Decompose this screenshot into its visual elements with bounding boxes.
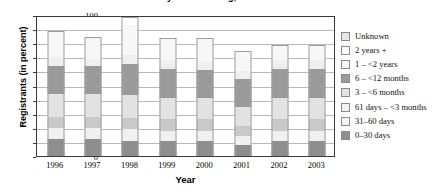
- bar-segment[interactable]: [234, 52, 251, 72]
- bar-segment[interactable]: [122, 141, 139, 157]
- bar-segment[interactable]: [47, 128, 64, 139]
- bar-segment[interactable]: [47, 117, 64, 128]
- bar-segment[interactable]: [122, 18, 139, 25]
- bar-segment[interactable]: [234, 71, 251, 78]
- stacked-bar[interactable]: [47, 31, 64, 156]
- bar-segment[interactable]: [85, 66, 102, 94]
- stacked-bar[interactable]: [197, 38, 214, 156]
- stacked-bar[interactable]: [271, 45, 288, 156]
- bar-segment[interactable]: [197, 39, 214, 62]
- bar-segment[interactable]: [197, 62, 214, 70]
- legend-label: 1 – <2 years: [355, 60, 397, 69]
- legend-swatch-icon: [341, 46, 350, 55]
- bar-segment[interactable]: [85, 59, 102, 66]
- bar-segment[interactable]: [122, 64, 139, 95]
- legend-swatch-icon: [341, 74, 350, 83]
- bar-segment[interactable]: [159, 60, 176, 68]
- legend-swatch-icon: [341, 117, 350, 126]
- legend-label: 6 – <12 months: [355, 74, 409, 83]
- legend-swatch-icon: [341, 60, 350, 69]
- y-axis-title: Registrants (in percent): [18, 7, 28, 147]
- bar-segment[interactable]: [234, 145, 251, 156]
- bar-segment[interactable]: [197, 131, 214, 141]
- bar-segment[interactable]: [234, 136, 251, 144]
- bar-segment[interactable]: [47, 32, 64, 57]
- bar-segment[interactable]: [159, 141, 176, 157]
- legend-swatch-icon: [341, 103, 350, 112]
- bar-segment[interactable]: [159, 39, 176, 60]
- bar-segment[interactable]: [271, 46, 288, 60]
- bar-segment[interactable]: [122, 95, 139, 118]
- bar-slot: [112, 17, 149, 156]
- legend-item[interactable]: 6 – <12 months: [341, 72, 427, 86]
- bar-segment[interactable]: [309, 98, 326, 119]
- stacked-bar[interactable]: [309, 45, 326, 156]
- bar-segment[interactable]: [85, 128, 102, 139]
- stacked-bar[interactable]: [85, 37, 102, 156]
- bar-segment[interactable]: [85, 139, 102, 156]
- x-tick-label: 1996: [35, 160, 75, 170]
- bar-segment[interactable]: [122, 25, 139, 55]
- bar-segment[interactable]: [271, 98, 288, 119]
- bar-segment[interactable]: [309, 119, 326, 130]
- bar-segment[interactable]: [309, 69, 326, 99]
- legend-item[interactable]: Unknown: [341, 29, 427, 43]
- bar-segment[interactable]: [271, 69, 288, 99]
- stacked-bar[interactable]: [234, 51, 251, 156]
- bar-segment[interactable]: [159, 69, 176, 99]
- x-tick-label: 1997: [72, 160, 112, 170]
- bar-slot: [187, 17, 224, 156]
- bar-segment[interactable]: [122, 118, 139, 129]
- bar-segment[interactable]: [309, 141, 326, 157]
- legend-item[interactable]: 1 – <2 years: [341, 57, 427, 71]
- bar-segment[interactable]: [271, 60, 288, 68]
- bar-segment[interactable]: [309, 46, 326, 60]
- bar-segment[interactable]: [234, 107, 251, 127]
- bar-slot: [261, 17, 298, 156]
- bar-segment[interactable]: [47, 139, 64, 156]
- bar-segment[interactable]: [309, 60, 326, 68]
- legend-swatch-icon: [341, 88, 350, 97]
- bar-segment[interactable]: [271, 119, 288, 130]
- bar-slot: [74, 17, 111, 156]
- bar-segment[interactable]: [197, 141, 214, 157]
- bar-segment[interactable]: [309, 131, 326, 141]
- bar-stack: [234, 51, 251, 156]
- bar-segment[interactable]: [47, 94, 64, 117]
- legend-item[interactable]: 2 years +: [341, 43, 427, 57]
- bar-slot: [224, 17, 261, 156]
- x-tick-label: 2002: [259, 160, 299, 170]
- bar-segment[interactable]: [85, 117, 102, 128]
- bar-segment[interactable]: [234, 79, 251, 107]
- x-tick-label: 2000: [184, 160, 224, 170]
- bar-segment[interactable]: [159, 119, 176, 130]
- stacked-bar[interactable]: [159, 38, 176, 156]
- stacked-bar[interactable]: [122, 17, 139, 156]
- legend-item[interactable]: 61 days – <3 months: [341, 100, 427, 114]
- bar-segment[interactable]: [197, 70, 214, 98]
- bar-segment[interactable]: [85, 94, 102, 117]
- plot-area: [36, 16, 335, 157]
- bar-segment[interactable]: [122, 55, 139, 65]
- bar-stack: [159, 38, 176, 156]
- bar-segment[interactable]: [47, 57, 64, 65]
- legend-label: 0–30 days: [355, 131, 390, 140]
- bar-segment[interactable]: [85, 38, 102, 59]
- bar-segment[interactable]: [159, 131, 176, 141]
- bar-segment[interactable]: [271, 141, 288, 157]
- bar-segment[interactable]: [197, 119, 214, 130]
- legend-item[interactable]: 0–30 days: [341, 128, 427, 142]
- chart-legend: Unknown2 years +1 – <2 years6 – <12 mont…: [341, 29, 427, 143]
- bar-segment[interactable]: [47, 66, 64, 94]
- bar-segment[interactable]: [122, 129, 139, 140]
- bar-segment[interactable]: [234, 126, 251, 136]
- legend-label: 3 – <6 months: [355, 88, 405, 97]
- legend-item[interactable]: 3 – <6 months: [341, 86, 427, 100]
- bar-segment[interactable]: [271, 131, 288, 141]
- x-tick-label: 1998: [109, 160, 149, 170]
- legend-label: 2 years +: [355, 46, 387, 55]
- bar-segment[interactable]: [159, 98, 176, 119]
- bar-segment[interactable]: [197, 98, 214, 119]
- bar-slot: [37, 17, 74, 156]
- legend-item[interactable]: 31–60 days: [341, 114, 427, 128]
